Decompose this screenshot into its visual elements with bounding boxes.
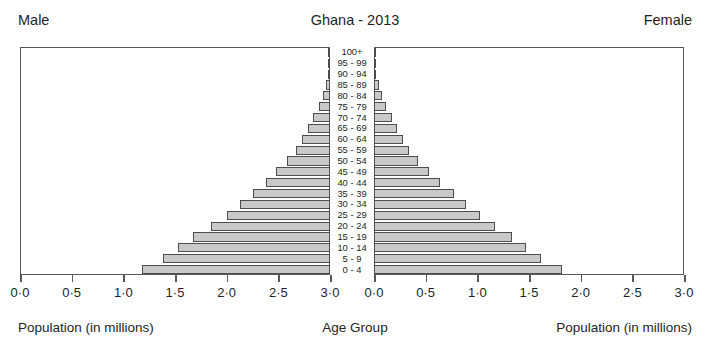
age-group-label-85-89: 85 - 89 [330, 80, 374, 89]
axis-tick-label: 1·0 [103, 285, 143, 300]
age-group-label-50-54: 50 - 54 [330, 156, 374, 165]
axis-tick-label: 3·0 [310, 285, 350, 300]
bar-male-45-49 [276, 167, 330, 176]
axis-tick-label: 2·0 [561, 285, 601, 300]
age-group-label-30-34: 30 - 34 [330, 199, 374, 208]
age-group-label-60-64: 60 - 64 [330, 134, 374, 143]
age-group-label-90-94: 90 - 94 [330, 69, 374, 78]
bar-male-55-59 [296, 146, 330, 155]
bar-male-0-4 [142, 265, 330, 274]
male-axis-tick-labels: 3·02·52·01·51·00·50·0 [20, 285, 330, 301]
female-axis-title: Population (in millions) [556, 320, 692, 335]
bar-female-40-44 [374, 178, 440, 187]
axis-tick [477, 275, 479, 282]
axis-tick-label: 1·0 [457, 285, 497, 300]
female-axis-tick-labels: 0·00·51·01·52·02·53·0 [374, 285, 684, 301]
bar-female-25-29 [374, 211, 480, 220]
chart-title: Ghana - 2013 [0, 12, 710, 28]
male-axis-ticks [20, 275, 330, 282]
axis-tick-label: 1·5 [509, 285, 549, 300]
female-bars-group [374, 47, 684, 275]
bar-male-65-69 [308, 124, 330, 133]
age-group-label-20-24: 20 - 24 [330, 221, 374, 230]
axis-tick [529, 275, 531, 282]
bar-male-15-19 [193, 232, 330, 241]
bar-male-10-14 [178, 243, 330, 252]
age-group-label-25-29: 25 - 29 [330, 210, 374, 219]
cut-off-top-text [0, 0, 710, 6]
bar-female-70-74 [374, 113, 392, 122]
bar-male-25-29 [227, 211, 330, 220]
age-group-label-0-4: 0 - 4 [330, 265, 374, 274]
axis-tick-label: 0·0 [354, 285, 394, 300]
axis-tick [123, 275, 125, 282]
axis-tick-label: 3·0 [664, 285, 704, 300]
bar-female-15-19 [374, 232, 512, 241]
age-group-label-35-39: 35 - 39 [330, 189, 374, 198]
axis-tick-label: 2·5 [258, 285, 298, 300]
bar-male-30-34 [240, 200, 330, 209]
bar-male-40-44 [266, 178, 330, 187]
bar-female-20-24 [374, 222, 495, 231]
axis-tick [20, 275, 22, 282]
age-group-label-65-69: 65 - 69 [330, 123, 374, 132]
axis-tick [581, 275, 583, 282]
bar-female-100+ [374, 48, 376, 57]
bar-female-65-69 [374, 124, 397, 133]
age-group-label-70-74: 70 - 74 [330, 113, 374, 122]
axis-tick [374, 275, 376, 282]
bar-female-55-59 [374, 146, 409, 155]
bar-female-90-94 [374, 70, 376, 79]
bar-male-20-24 [211, 222, 330, 231]
axis-tick [426, 275, 428, 282]
axis-tick-label: 2·0 [207, 285, 247, 300]
age-group-label-15-19: 15 - 19 [330, 232, 374, 241]
bar-female-35-39 [374, 189, 454, 198]
axis-tick [684, 275, 686, 282]
bar-female-50-54 [374, 156, 418, 165]
age-group-label-45-49: 45 - 49 [330, 167, 374, 176]
age-group-label-55-59: 55 - 59 [330, 145, 374, 154]
axis-tick [278, 275, 280, 282]
age-group-label-75-79: 75 - 79 [330, 102, 374, 111]
age-group-label-10-14: 10 - 14 [330, 243, 374, 252]
age-group-label-95-99: 95 - 99 [330, 58, 374, 67]
age-group-label-80-84: 80 - 84 [330, 91, 374, 100]
axis-tick [632, 275, 634, 282]
bar-male-50-54 [287, 156, 330, 165]
axis-tick-label: 2·5 [612, 285, 652, 300]
bar-male-5-9 [163, 254, 330, 263]
age-group-labels: 0 - 45 - 910 - 1415 - 1920 - 2425 - 2930… [330, 47, 374, 275]
bar-male-80-84 [323, 91, 330, 100]
population-pyramid-chart: Male Ghana - 2013 Female 0 - 45 - 910 - … [0, 0, 710, 351]
axis-tick [72, 275, 74, 282]
bar-male-70-74 [313, 113, 330, 122]
female-axis-ticks [374, 275, 684, 282]
bar-female-45-49 [374, 167, 429, 176]
axis-tick [175, 275, 177, 282]
axis-tick-label: 0·5 [406, 285, 446, 300]
bar-female-10-14 [374, 243, 526, 252]
bar-female-60-64 [374, 135, 403, 144]
age-group-label-100+: 100+ [330, 47, 374, 56]
age-group-label-40-44: 40 - 44 [330, 178, 374, 187]
male-bars-group [20, 47, 330, 275]
bar-female-30-34 [374, 200, 466, 209]
axis-tick [227, 275, 229, 282]
bar-female-85-89 [374, 80, 379, 89]
bar-male-60-64 [302, 135, 330, 144]
bar-male-75-79 [319, 102, 330, 111]
bar-female-75-79 [374, 102, 386, 111]
axis-tick-label: 0·0 [0, 285, 40, 300]
female-side-label: Female [644, 12, 692, 28]
bar-female-5-9 [374, 254, 541, 263]
axis-tick [330, 275, 332, 282]
bar-female-0-4 [374, 265, 562, 274]
bar-male-35-39 [253, 189, 331, 198]
age-group-label-5-9: 5 - 9 [330, 254, 374, 263]
bar-female-95-99 [374, 59, 376, 68]
axis-tick-label: 0·5 [52, 285, 92, 300]
axis-tick-label: 1·5 [155, 285, 195, 300]
bar-female-80-84 [374, 91, 382, 100]
